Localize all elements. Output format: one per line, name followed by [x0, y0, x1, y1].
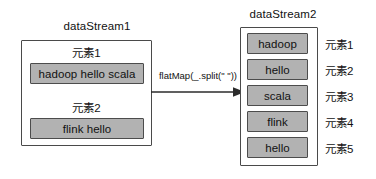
datastream2-title: dataStream2 — [233, 8, 333, 20]
diagram-canvas: dataStream1 元素1 hadoop hello scala 元素2 f… — [0, 0, 376, 179]
datastream2-element-1-label: 元素2 — [325, 62, 353, 78]
datastream2-element-4-label: 元素5 — [325, 140, 353, 156]
datastream2-element-2-label: 元素3 — [325, 88, 353, 104]
datastream2-element-3-label: 元素4 — [325, 114, 353, 130]
datastream1-element-1-chip: flink hello — [30, 118, 144, 139]
datastream2-element-0-chip: hadoop — [247, 33, 308, 54]
datastream2-element-4-chip: hello — [247, 137, 308, 158]
datastream2-element-0-label: 元素1 — [325, 36, 353, 52]
datastream2-element-2-chip: scala — [247, 85, 308, 106]
flatmap-label: flatMap(_.split(" ")) — [150, 70, 246, 82]
datastream1-element-1-heading: 元素2 — [21, 99, 152, 115]
arrow-right-icon — [150, 84, 246, 100]
datastream2-element-1-chip: hello — [247, 59, 308, 80]
datastream1-element-0-chip: hadoop hello scala — [30, 63, 144, 84]
datastream1-title: dataStream1 — [47, 20, 147, 32]
datastream1-element-0-heading: 元素1 — [21, 44, 152, 60]
datastream2-element-3-chip: flink — [247, 111, 308, 132]
flatmap-transform: flatMap(_.split(" ")) — [150, 70, 246, 102]
